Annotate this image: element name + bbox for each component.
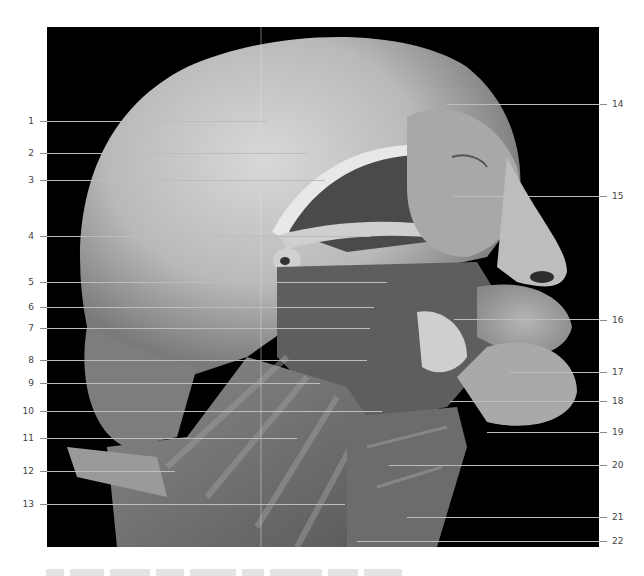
label-number-2: 2 bbox=[10, 148, 34, 158]
label-tick-22 bbox=[600, 541, 607, 542]
leader-line-21 bbox=[407, 517, 599, 518]
label-tick-5 bbox=[40, 282, 47, 283]
leader-line-16 bbox=[454, 319, 599, 320]
nose bbox=[497, 157, 567, 286]
leader-line-20 bbox=[389, 465, 599, 466]
label-number-21: 21 bbox=[612, 512, 623, 522]
label-tick-14 bbox=[600, 104, 607, 105]
label-tick-9 bbox=[40, 383, 47, 384]
label-tick-1 bbox=[40, 121, 47, 122]
leader-line-6 bbox=[47, 307, 374, 308]
label-number-1: 1 bbox=[10, 116, 34, 126]
leader-line-10 bbox=[47, 411, 382, 412]
label-tick-16 bbox=[600, 320, 607, 321]
leader-line-5 bbox=[47, 282, 387, 283]
label-number-22: 22 bbox=[612, 536, 623, 546]
leader-line-8 bbox=[47, 360, 367, 361]
leader-line-1 bbox=[47, 121, 267, 122]
leader-line-12 bbox=[47, 471, 175, 472]
label-tick-7 bbox=[40, 328, 47, 329]
label-number-8: 8 bbox=[10, 355, 34, 365]
label-number-10: 10 bbox=[10, 406, 34, 416]
leader-line-9 bbox=[47, 383, 320, 384]
label-tick-13 bbox=[40, 504, 47, 505]
anatomy-figure: 12345678910111213141516171819202122 bbox=[0, 0, 644, 576]
leader-line-18 bbox=[450, 401, 599, 402]
leader-line-19 bbox=[487, 432, 599, 433]
head-neck-dissection-image bbox=[47, 27, 599, 547]
label-tick-21 bbox=[600, 517, 607, 518]
label-tick-2 bbox=[40, 153, 47, 154]
label-number-6: 6 bbox=[10, 302, 34, 312]
label-tick-3 bbox=[40, 180, 47, 181]
label-tick-20 bbox=[600, 465, 607, 466]
leader-line-4 bbox=[47, 236, 370, 237]
label-number-3: 3 bbox=[10, 175, 34, 185]
dissection-photo bbox=[47, 27, 599, 547]
label-tick-17 bbox=[600, 372, 607, 373]
leader-line-13 bbox=[47, 504, 345, 505]
label-tick-15 bbox=[600, 196, 607, 197]
label-number-17: 17 bbox=[612, 367, 623, 377]
leader-line-11 bbox=[47, 438, 297, 439]
label-number-20: 20 bbox=[612, 460, 623, 470]
leader-line-22 bbox=[357, 541, 599, 542]
label-tick-11 bbox=[40, 438, 47, 439]
label-number-19: 19 bbox=[612, 427, 623, 437]
leader-line-3 bbox=[47, 180, 325, 181]
leader-line-14 bbox=[447, 104, 599, 105]
label-number-5: 5 bbox=[10, 277, 34, 287]
leader-line-7 bbox=[47, 328, 370, 329]
label-number-14: 14 bbox=[612, 99, 623, 109]
label-number-18: 18 bbox=[612, 396, 623, 406]
label-number-15: 15 bbox=[612, 191, 623, 201]
label-number-16: 16 bbox=[612, 315, 623, 325]
label-tick-4 bbox=[40, 236, 47, 237]
caption-clipped bbox=[46, 569, 426, 576]
label-number-11: 11 bbox=[10, 433, 34, 443]
leader-line-17 bbox=[510, 372, 599, 373]
leader-line-2 bbox=[47, 153, 307, 154]
label-tick-8 bbox=[40, 360, 47, 361]
label-tick-18 bbox=[600, 401, 607, 402]
label-number-7: 7 bbox=[10, 323, 34, 333]
label-number-12: 12 bbox=[10, 466, 34, 476]
label-tick-10 bbox=[40, 411, 47, 412]
leader-line-15 bbox=[453, 196, 599, 197]
label-number-4: 4 bbox=[10, 231, 34, 241]
label-tick-19 bbox=[600, 432, 607, 433]
label-number-9: 9 bbox=[10, 378, 34, 388]
label-tick-12 bbox=[40, 471, 47, 472]
label-number-13: 13 bbox=[10, 499, 34, 509]
label-tick-6 bbox=[40, 307, 47, 308]
